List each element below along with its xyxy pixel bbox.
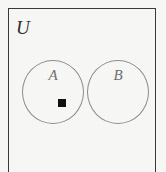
set-label-b: B bbox=[108, 68, 128, 83]
set-label-a: A bbox=[43, 68, 63, 83]
universal-set-label: U bbox=[16, 18, 30, 37]
element-marker-in-set-a bbox=[58, 99, 66, 107]
venn-diagram-figure: U A B bbox=[0, 0, 166, 172]
